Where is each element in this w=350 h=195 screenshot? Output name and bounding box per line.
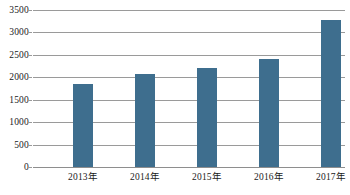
bar-2015[interactable] bbox=[197, 68, 217, 167]
x-axis-labels: 2013年 2014年 2015年 2016年 2017年 bbox=[33, 171, 345, 187]
y-tick-mark bbox=[28, 77, 32, 78]
y-tick-mark bbox=[28, 145, 32, 146]
y-axis-tick-label: 2500 bbox=[0, 50, 29, 60]
x-axis-baseline bbox=[33, 167, 345, 168]
y-axis-tick-label: 500 bbox=[0, 140, 29, 150]
bar-2016[interactable] bbox=[259, 59, 279, 167]
y-axis-tick-label: 1500 bbox=[0, 95, 29, 105]
bar-2014[interactable] bbox=[135, 74, 155, 167]
x-axis-tick-label-2017: 2017年 bbox=[301, 171, 350, 183]
y-tick-mark bbox=[28, 55, 32, 56]
y-tick-mark bbox=[28, 100, 32, 101]
y-tick-mark bbox=[28, 32, 32, 33]
y-axis-tick-label: 1000 bbox=[0, 117, 29, 127]
y-tick-mark bbox=[28, 10, 32, 11]
x-axis-tick-label-2015: 2015年 bbox=[177, 171, 237, 183]
y-tick-mark bbox=[28, 122, 32, 123]
x-axis-tick-label-2016: 2016年 bbox=[239, 171, 299, 183]
x-axis-tick-label-2013: 2013年 bbox=[53, 171, 113, 183]
bars-layer bbox=[33, 10, 345, 167]
plot-area bbox=[33, 10, 345, 167]
bar-chart: 3500 3000 2500 2000 1500 1000 500 0 2013… bbox=[0, 0, 350, 195]
y-axis-tick-label: 0 bbox=[0, 162, 29, 172]
x-axis-tick-label-2014: 2014年 bbox=[115, 171, 175, 183]
y-tick-mark bbox=[28, 167, 32, 168]
y-axis-tick-label: 2000 bbox=[0, 72, 29, 82]
y-axis-tick-label: 3500 bbox=[0, 5, 29, 15]
y-axis-labels: 3500 3000 2500 2000 1500 1000 500 0 bbox=[0, 0, 29, 195]
y-axis-tick-label: 3000 bbox=[0, 27, 29, 37]
bar-2017[interactable] bbox=[321, 20, 341, 167]
bar-2013[interactable] bbox=[73, 84, 93, 167]
